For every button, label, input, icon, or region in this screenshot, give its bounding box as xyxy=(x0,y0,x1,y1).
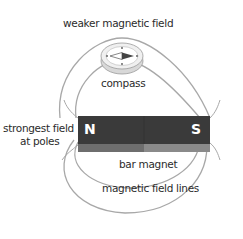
south-pole-label: S xyxy=(191,121,201,137)
label-weaker-field: weaker magnetic field xyxy=(63,17,173,29)
field-line-pole-right-2 xyxy=(210,143,220,160)
label-bar-magnet: bar magnet xyxy=(119,158,177,170)
north-pole-label: N xyxy=(84,121,96,137)
field-line-pole-right-1 xyxy=(210,100,220,118)
field-lines-graphic xyxy=(0,0,243,239)
label-field-lines: magnetic field lines xyxy=(102,182,199,194)
magnet-field-diagram: weaker magnetic field compass strongest … xyxy=(0,0,243,239)
label-at-poles: at poles xyxy=(20,135,59,147)
label-compass: compass xyxy=(101,77,145,89)
label-strongest-field: strongest field xyxy=(3,122,74,134)
compass-icon xyxy=(101,43,143,74)
